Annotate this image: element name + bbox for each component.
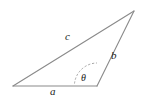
angle-label-theta: θ: [81, 73, 86, 83]
triangle-drawing: [0, 0, 141, 101]
side-label-b: b: [111, 50, 117, 61]
side-label-c: c: [65, 31, 70, 42]
triangle-figure: a b c θ: [0, 0, 141, 101]
side-label-a: a: [50, 86, 56, 97]
